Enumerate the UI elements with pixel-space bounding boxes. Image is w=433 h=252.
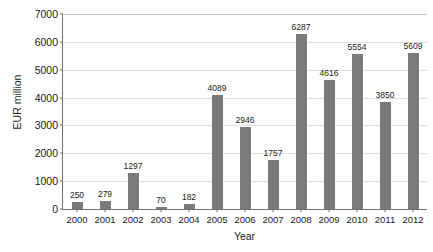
bar-slot: 702003 bbox=[147, 14, 175, 209]
bar-value-label: 6287 bbox=[292, 22, 311, 32]
y-tick-label: 6000 bbox=[35, 36, 58, 48]
x-tick-label: 2002 bbox=[122, 214, 143, 225]
x-tick-mark bbox=[413, 209, 414, 212]
bar[interactable]: 5554 bbox=[352, 54, 363, 209]
plot-area: 01000200030004000500060007000 2502000279… bbox=[62, 14, 427, 210]
bar-value-label: 1757 bbox=[264, 148, 283, 158]
bar-slot: 12972002 bbox=[119, 14, 147, 209]
x-tick-label: 2000 bbox=[66, 214, 87, 225]
x-tick-mark bbox=[77, 209, 78, 212]
x-axis-title: Year bbox=[62, 230, 427, 242]
bar[interactable]: 3850 bbox=[380, 102, 391, 209]
x-tick-mark bbox=[133, 209, 134, 212]
bar[interactable]: 5609 bbox=[408, 53, 419, 209]
bar[interactable]: 1757 bbox=[268, 160, 279, 209]
x-tick-label: 2004 bbox=[178, 214, 199, 225]
x-tick-mark bbox=[385, 209, 386, 212]
y-axis-title: EUR million bbox=[11, 54, 23, 150]
bar-value-label: 4089 bbox=[208, 83, 227, 93]
bar-slot: 38502011 bbox=[371, 14, 399, 209]
bar-slot: 17572007 bbox=[259, 14, 287, 209]
y-tick-label: 4000 bbox=[35, 92, 58, 104]
bar-slot: 1822004 bbox=[175, 14, 203, 209]
x-tick-label: 2012 bbox=[402, 214, 423, 225]
bar-value-label: 3850 bbox=[376, 90, 395, 100]
bar[interactable]: 4089 bbox=[212, 95, 223, 209]
x-tick-label: 2011 bbox=[375, 214, 395, 225]
x-tick-label: 2008 bbox=[290, 214, 311, 225]
y-tick-label: 3000 bbox=[35, 119, 58, 131]
bar-value-label: 70 bbox=[156, 195, 165, 205]
bar-value-label: 250 bbox=[70, 190, 84, 200]
bar-slot: 56092012 bbox=[399, 14, 427, 209]
x-tick-mark bbox=[329, 209, 330, 212]
x-tick-label: 2010 bbox=[346, 214, 367, 225]
y-tick-label: 2000 bbox=[35, 147, 58, 159]
bar-series: 2502000279200112972002702003182200440892… bbox=[63, 14, 427, 209]
bar[interactable]: 279 bbox=[100, 201, 111, 209]
bar[interactable]: 1297 bbox=[128, 173, 139, 209]
x-tick-mark bbox=[161, 209, 162, 212]
bar-slot: 46162009 bbox=[315, 14, 343, 209]
bar-slot: 55542010 bbox=[343, 14, 371, 209]
bar-value-label: 182 bbox=[182, 192, 196, 202]
y-tick-label: 0 bbox=[52, 203, 58, 215]
x-tick-mark bbox=[357, 209, 358, 212]
x-tick-label: 2003 bbox=[150, 214, 171, 225]
y-tick-label: 5000 bbox=[35, 64, 58, 76]
bar-value-label: 279 bbox=[98, 189, 112, 199]
chart-title bbox=[0, 0, 433, 4]
bar-value-label: 1297 bbox=[124, 161, 143, 171]
bar-value-label: 2946 bbox=[236, 115, 255, 125]
x-tick-mark bbox=[189, 209, 190, 212]
bar[interactable]: 250 bbox=[72, 202, 83, 209]
y-tick-label: 7000 bbox=[35, 8, 58, 20]
bar-chart: EUR million 0100020003000400050006000700… bbox=[0, 0, 433, 252]
bar-value-label: 5609 bbox=[404, 41, 423, 51]
bar[interactable]: 6287 bbox=[296, 34, 307, 209]
bar-slot: 2502000 bbox=[63, 14, 91, 209]
bar-slot: 29462006 bbox=[231, 14, 259, 209]
x-tick-label: 2006 bbox=[234, 214, 255, 225]
bar-slot: 62872008 bbox=[287, 14, 315, 209]
bar[interactable]: 4616 bbox=[324, 80, 335, 209]
x-tick-label: 2009 bbox=[318, 214, 339, 225]
bar-value-label: 4616 bbox=[320, 68, 339, 78]
x-tick-mark bbox=[301, 209, 302, 212]
bar[interactable]: 2946 bbox=[240, 127, 251, 209]
bar-value-label: 5554 bbox=[348, 42, 367, 52]
x-tick-label: 2007 bbox=[262, 214, 283, 225]
x-tick-mark bbox=[273, 209, 274, 212]
x-tick-mark bbox=[245, 209, 246, 212]
x-tick-label: 2005 bbox=[206, 214, 227, 225]
bar-slot: 2792001 bbox=[91, 14, 119, 209]
bar-slot: 40892005 bbox=[203, 14, 231, 209]
x-tick-mark bbox=[105, 209, 106, 212]
x-tick-label: 2001 bbox=[94, 214, 115, 225]
y-tick-label: 1000 bbox=[35, 175, 58, 187]
x-tick-mark bbox=[217, 209, 218, 212]
